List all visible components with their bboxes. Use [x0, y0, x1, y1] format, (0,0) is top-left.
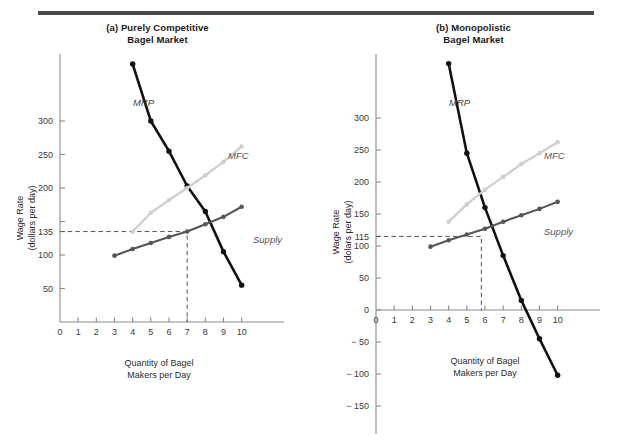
x-axis-title: Quantity of BagelMakers per Day	[450, 356, 519, 378]
x-tick-label: 3	[428, 315, 433, 325]
data-point	[167, 198, 172, 203]
data-point	[130, 229, 135, 234]
data-point	[555, 373, 560, 378]
y-tick-label: − 100	[346, 369, 369, 379]
data-point	[112, 253, 117, 258]
data-point	[465, 202, 470, 207]
x-tick-label: 0	[373, 315, 378, 325]
data-point	[221, 249, 226, 254]
y-tick-label: 50	[359, 273, 369, 283]
y-tick-label: 115	[355, 232, 369, 242]
x-tick-label: 2	[410, 315, 415, 325]
panel-monopolistic: (b) Monopolistic Bagel Market − 150− 100…	[316, 22, 631, 442]
curve-label-mfc: MFC	[228, 150, 249, 161]
data-point	[482, 205, 487, 210]
x-tick-label: 8	[519, 315, 524, 325]
x-tick-label: 7	[185, 327, 190, 337]
y-tick-label: 200	[354, 177, 369, 187]
y-tick-label: 200	[38, 183, 53, 193]
x-axis-title-line2: Makers per Day	[127, 370, 191, 380]
data-point	[519, 213, 524, 218]
chart-b-canvas: − 150− 100− 5005010011515020025030001234…	[316, 22, 631, 442]
y-axis-title-line1: Wage Rate	[331, 210, 341, 255]
y-tick-label: 250	[354, 145, 369, 155]
data-point	[130, 61, 135, 66]
data-point	[446, 61, 451, 66]
data-point	[446, 219, 451, 224]
y-tick-label: − 150	[346, 401, 369, 411]
x-tick-label: 8	[203, 327, 208, 337]
y-axis-title-line2: (dolars per day)	[343, 200, 353, 263]
y-tick-label: 50	[43, 284, 53, 294]
data-point	[555, 140, 560, 145]
data-point	[148, 118, 153, 123]
x-tick-label: 2	[94, 327, 99, 337]
data-point	[464, 151, 469, 156]
x-tick-label: 5	[464, 315, 469, 325]
x-tick-label: 5	[148, 327, 153, 337]
x-tick-label: 3	[112, 327, 117, 337]
data-point	[501, 175, 506, 180]
series-mfc	[446, 140, 560, 224]
x-tick-label: 9	[537, 315, 542, 325]
data-point	[465, 232, 470, 237]
series-mfc	[130, 144, 244, 234]
x-tick-label: 1	[76, 327, 81, 337]
data-point	[203, 222, 208, 227]
data-point	[519, 298, 524, 303]
x-axis-title: Quantity of BagelMakers per Day	[124, 358, 193, 380]
x-tick-label: 7	[501, 315, 506, 325]
data-point	[483, 187, 488, 192]
x-tick-label: 6	[482, 315, 487, 325]
series-supply	[428, 200, 560, 249]
panel-purely-competitive: (a) Purely Competitive Bagel Market 5010…	[0, 22, 315, 442]
data-point	[149, 210, 154, 215]
curve-label-supply: Supply	[253, 234, 283, 245]
y-axis-title-line2: (dollars per day)	[27, 185, 37, 250]
data-point	[500, 253, 505, 258]
x-tick-label: 6	[166, 327, 171, 337]
data-point	[166, 148, 171, 153]
y-tick-label: 300	[38, 116, 53, 126]
data-point	[428, 244, 433, 249]
curve-label-mrp: MRP	[133, 97, 155, 108]
data-point	[239, 144, 244, 149]
y-tick-label: 300	[354, 113, 369, 123]
data-point	[537, 336, 542, 341]
x-axis-title-line1: Quantity of Bagel	[124, 358, 193, 368]
x-tick-label: 0	[57, 327, 62, 337]
curve-label-mfc: MFC	[544, 150, 565, 161]
chart-a-canvas: 50100135200250300012345678910MRPMFCSuppl…	[0, 22, 315, 442]
x-tick-label: 4	[446, 315, 451, 325]
data-point	[149, 241, 154, 246]
data-point	[519, 162, 524, 167]
y-tick-label: 0	[364, 305, 369, 315]
data-point	[203, 209, 208, 214]
x-tick-label: 1	[392, 315, 397, 325]
data-point	[167, 235, 172, 240]
x-tick-label: 10	[553, 315, 563, 325]
y-axis-title: Wage Rate(dolars per day)	[331, 200, 353, 263]
top-rule	[38, 11, 594, 15]
y-tick-label: 100	[354, 241, 369, 251]
equilibrium-guide	[60, 232, 187, 322]
data-point	[221, 160, 226, 165]
data-point	[203, 173, 208, 178]
x-tick-label: 4	[130, 327, 135, 337]
data-point	[483, 226, 488, 231]
data-point	[130, 247, 135, 252]
data-point	[185, 229, 190, 234]
x-tick-label: 9	[221, 327, 226, 337]
x-axis-title-line1: Quantity of Bagel	[450, 356, 519, 366]
y-axis-title-line1: Wage Rate	[15, 196, 25, 241]
data-point	[239, 204, 244, 209]
y-tick-label: − 50	[351, 337, 369, 347]
x-axis-title-line2: Makers per Day	[453, 368, 517, 378]
data-point	[537, 151, 542, 156]
data-point	[555, 200, 560, 205]
curve-label-supply: Supply	[544, 226, 574, 237]
data-point	[239, 282, 244, 287]
data-point	[221, 215, 226, 220]
y-axis-title: Wage Rate(dollars per day)	[15, 185, 37, 250]
data-point	[446, 238, 451, 243]
